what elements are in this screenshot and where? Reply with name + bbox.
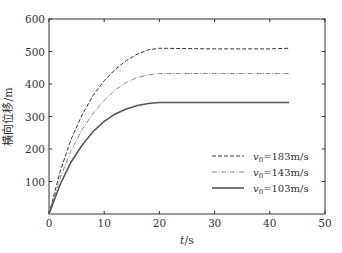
x-tick-label: 10 xyxy=(98,217,111,229)
y-tick-label: 500 xyxy=(25,46,45,58)
x-tick-label: 50 xyxy=(318,217,331,229)
y-tick-label: 600 xyxy=(25,13,45,25)
chart-container: 01020304050100200300400500600t/s横向位移/mv0… xyxy=(0,0,342,253)
y-tick-label: 200 xyxy=(25,143,45,155)
y-tick-label: 300 xyxy=(25,111,45,123)
line-chart: 01020304050100200300400500600t/s横向位移/mv0… xyxy=(0,0,342,253)
x-axis-label: t/s xyxy=(180,234,194,247)
legend-label: v0=183m/s xyxy=(253,151,309,164)
y-axis-label: 横向位移/m xyxy=(1,87,15,146)
x-tick-label: 30 xyxy=(208,217,221,229)
legend-label: v0=143m/s xyxy=(253,167,309,180)
x-tick-label: 20 xyxy=(153,217,166,229)
x-tick-label: 0 xyxy=(46,217,53,229)
y-tick-label: 400 xyxy=(25,78,45,90)
x-tick-label: 40 xyxy=(263,217,276,229)
y-tick-label: 100 xyxy=(25,176,45,188)
legend-label: v0=103m/s xyxy=(253,183,309,196)
